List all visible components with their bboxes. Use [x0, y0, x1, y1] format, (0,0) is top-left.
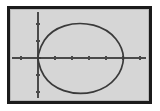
curve-equation-label: r = 2 + 2cos(theta)	[0, 0, 1, 1]
calculator-screen[interactable]	[7, 6, 152, 104]
screenshot-root: r = 2 + 2cos(theta)	[0, 0, 160, 111]
polar-curve-plot	[10, 9, 149, 101]
